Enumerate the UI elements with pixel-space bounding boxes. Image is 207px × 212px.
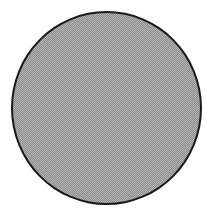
gray-circle [11, 11, 202, 205]
